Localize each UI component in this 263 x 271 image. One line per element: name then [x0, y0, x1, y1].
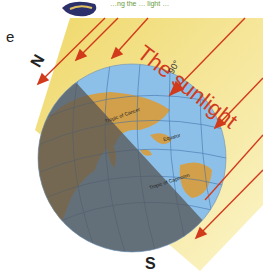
logo-icon — [62, 2, 96, 17]
south-label: S — [145, 255, 156, 271]
caption-text: …ng the … light … — [110, 0, 169, 7]
cropped-text: e — [6, 28, 14, 45]
diagram-graphic — [0, 0, 263, 271]
earth-sunlight-diagram: …ng the … light … e N S The sunlight 90°… — [0, 0, 263, 271]
